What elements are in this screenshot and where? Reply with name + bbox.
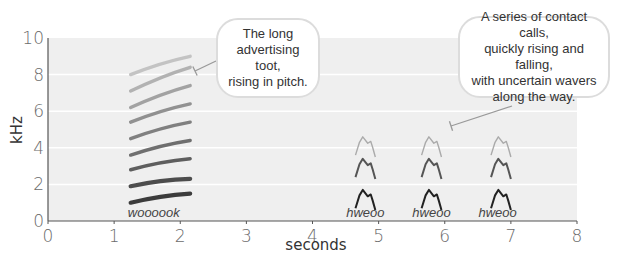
x-tick-label: 5 [373,226,384,246]
y-tick-label: 10 [22,28,44,48]
x-tick-label: 0 [43,226,54,246]
y-tick-label: 4 [33,138,44,158]
call-label: hweoo [478,205,516,220]
call-label: woooook [128,205,182,220]
callout-line: advertising toot, [226,42,310,74]
x-tick-label: 6 [439,226,450,246]
x-tick-label: 8 [572,226,583,246]
y-tick-label: 6 [33,101,44,121]
callout-line: The long [226,26,310,42]
callout-advertising-toot: The long advertising toot, rising in pit… [216,18,320,98]
y-axis-title: kHz [8,116,26,144]
callout-line: A series of contact calls, [468,9,600,41]
x-tick-label: 2 [175,226,186,246]
x-tick-label: 7 [505,226,516,246]
callout-line: along the way. [468,89,600,105]
callout-line: with uncertain wavers [468,73,600,89]
x-tick-label: 1 [109,226,120,246]
x-tick-label: 3 [241,226,252,246]
y-tick-label: 2 [33,174,44,194]
callout-line: quickly rising and falling, [468,41,600,73]
y-tick-label: 0 [33,211,44,231]
y-tick-label: 8 [33,65,44,85]
call-label: hweoo [412,205,450,220]
callout-contact-calls: A series of contact calls, quickly risin… [458,16,610,98]
call-label: hweoo [346,205,384,220]
x-axis-title: seconds [285,236,346,254]
callout-line: rising in pitch. [226,74,310,90]
